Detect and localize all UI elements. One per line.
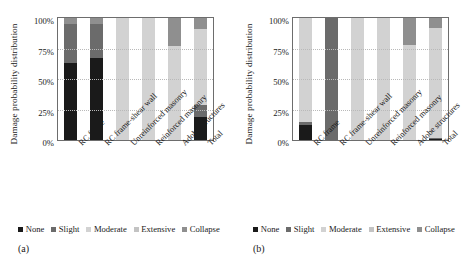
legend-item-moderate[interactable]: Moderate <box>321 225 361 234</box>
plot-area-a <box>57 17 214 141</box>
x-tick-label: Reinforced masonry <box>389 141 395 147</box>
grid-line <box>293 79 448 80</box>
legend-a: NoneSlightModerateExtensiveCollapse <box>10 222 228 236</box>
x-tick-label: RC frame <box>77 141 83 147</box>
y-tick-label: 100% <box>34 17 54 26</box>
legend-swatch-icon <box>134 227 139 232</box>
legend-swatch-icon <box>253 227 258 232</box>
legend-swatch-icon <box>51 227 56 232</box>
legend-item-none[interactable]: None <box>253 225 279 234</box>
y-tick-label: 50% <box>273 78 289 87</box>
legend-item-collapse[interactable]: Collapse <box>417 225 455 234</box>
legend-label: Collapse <box>425 225 455 234</box>
y-axis-ticks-b: 100%75%50%25%0% <box>255 11 289 145</box>
bar-segment-none[interactable] <box>429 139 442 140</box>
legend-item-slight[interactable]: Slight <box>286 225 314 234</box>
chart-panel-b: Damage probability distribution 100%75%5… <box>235 0 470 265</box>
legend-swatch-icon <box>182 227 187 232</box>
grid-line <box>58 49 213 50</box>
x-tick-label: Unreinforced masonry <box>364 141 370 147</box>
bar-segment-collapse[interactable] <box>403 18 416 45</box>
legend-item-collapse[interactable]: Collapse <box>182 225 220 234</box>
x-tick-label: Unreinforced masonry <box>129 141 135 147</box>
y-tick-label: 75% <box>273 48 289 57</box>
bar-segment-slight[interactable] <box>64 24 77 63</box>
legend-label: None <box>26 225 45 234</box>
legend-swatch-icon <box>369 227 374 232</box>
bar-segment-collapse[interactable] <box>429 18 442 28</box>
panel-caption-a: (a) <box>18 243 29 255</box>
legend-swatch-icon <box>286 227 291 232</box>
x-tick-label: Reinforced masonry <box>154 141 160 147</box>
x-tick-label: Adobe structures <box>415 141 421 147</box>
y-tick-label: 25% <box>38 109 54 118</box>
x-axis-ticks-b: RC frameRC frame-shear wallUnreinforced … <box>292 141 447 203</box>
legend-label: Extensive <box>376 225 410 234</box>
x-tick-label: Adobe structures <box>180 141 186 147</box>
legend-label: None <box>261 225 280 234</box>
legend-item-slight[interactable]: Slight <box>51 225 79 234</box>
legend-item-extensive[interactable]: Extensive <box>369 225 410 234</box>
legend-label: Moderate <box>329 225 362 234</box>
y-axis-ticks-a: 100%75%50%25%0% <box>20 11 54 145</box>
bar-segment-none[interactable] <box>64 63 77 140</box>
legend-item-none[interactable]: None <box>18 225 44 234</box>
x-tick-label: Total <box>441 141 447 147</box>
y-tick-label: 25% <box>273 109 289 118</box>
bar-segment-slight[interactable] <box>90 24 103 58</box>
bar-segment-collapse[interactable] <box>194 18 207 29</box>
legend-swatch-icon <box>18 227 23 232</box>
x-tick-label: RC frame <box>312 141 318 147</box>
legend-label: Extensive <box>141 225 175 234</box>
legend-swatch-icon <box>86 227 91 232</box>
legend-swatch-icon <box>417 227 422 232</box>
legend-item-moderate[interactable]: Moderate <box>86 225 126 234</box>
legend-label: Slight <box>59 225 80 234</box>
x-axis-ticks-a: RC frameRC frame-shear wallUnreinforced … <box>57 141 212 203</box>
legend-label: Moderate <box>94 225 127 234</box>
x-tick-label: RC frame-shear wall <box>103 141 109 147</box>
legend-b: NoneSlightModerateExtensiveCollapse <box>245 222 463 236</box>
x-tick-label: Total <box>206 141 212 147</box>
panel-caption-b: (b) <box>253 243 265 255</box>
legend-label: Collapse <box>190 225 220 234</box>
figure-container: Damage probability distribution 100%75%5… <box>0 0 471 265</box>
y-tick-label: 0% <box>43 139 54 148</box>
x-tick-label: RC frame-shear wall <box>338 141 344 147</box>
legend-item-extensive[interactable]: Extensive <box>134 225 175 234</box>
grid-line <box>293 49 448 50</box>
legend-swatch-icon <box>321 227 326 232</box>
legend-label: Slight <box>294 225 315 234</box>
grid-line <box>58 79 213 80</box>
bar-segment-none[interactable] <box>299 125 312 140</box>
y-tick-label: 0% <box>278 139 289 148</box>
plot-area-b <box>292 17 449 141</box>
chart-panel-a: Damage probability distribution 100%75%5… <box>0 0 235 265</box>
y-tick-label: 75% <box>38 48 54 57</box>
y-tick-label: 100% <box>269 17 289 26</box>
bar-segment-moderate[interactable] <box>299 18 312 122</box>
y-tick-label: 50% <box>38 78 54 87</box>
bar-segment-collapse[interactable] <box>168 18 181 46</box>
